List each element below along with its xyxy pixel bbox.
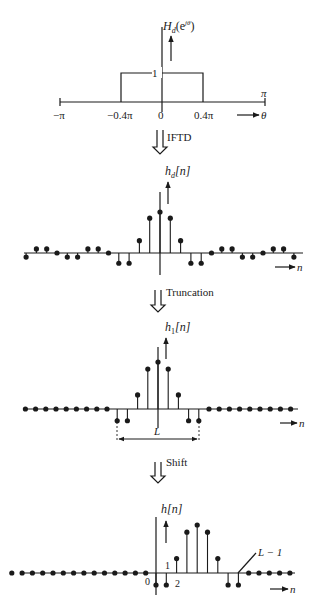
step-ifdt: IFTD	[153, 130, 192, 154]
y-axis-label: hd[n]	[165, 164, 191, 180]
tick-0.4pi: 0.4π	[194, 109, 214, 121]
stem-point	[71, 570, 76, 575]
stem-point	[227, 406, 232, 411]
stem-point	[268, 406, 273, 411]
stem-point	[267, 570, 272, 575]
step-truncation: Truncation	[151, 286, 214, 312]
stem-point	[174, 556, 179, 561]
double-down-arrow-icon	[151, 462, 165, 483]
stem-point	[188, 261, 193, 266]
stem-point	[20, 570, 25, 575]
tick-neg-0.4pi: −0.4π	[107, 109, 133, 121]
y-axis-label: h1[n]	[165, 320, 191, 336]
stem-point	[64, 406, 69, 411]
stem-point	[147, 216, 152, 221]
stem-point	[116, 261, 121, 266]
stem-point	[281, 246, 286, 251]
stem-point	[164, 582, 169, 587]
stem-point	[291, 255, 296, 260]
stem-point	[94, 406, 99, 411]
truncated-impulse-response-plot: h1[n] L n	[23, 320, 305, 441]
stem-point	[106, 250, 111, 255]
stem-point	[135, 392, 140, 397]
stem-point	[125, 418, 130, 423]
window-length-label: L	[153, 425, 160, 437]
x-axis-label: n	[290, 583, 296, 595]
double-down-arrow-icon	[153, 130, 167, 154]
stem-point	[104, 406, 109, 411]
stem-point	[166, 366, 171, 371]
stem-point	[271, 246, 276, 251]
stem-point	[102, 570, 107, 575]
stem-point	[237, 406, 242, 411]
stem-point	[168, 216, 173, 221]
stem-point	[209, 250, 214, 255]
stem-point	[195, 522, 200, 527]
stem-point	[85, 246, 90, 251]
end-index-label: L − 1	[257, 546, 282, 558]
stem-point	[157, 209, 162, 214]
stem-point	[186, 418, 191, 423]
stem-point	[96, 246, 101, 251]
stem-point	[33, 406, 38, 411]
stem-point	[145, 366, 150, 371]
stem-point	[123, 570, 128, 575]
stem-point	[219, 246, 224, 251]
stem-point	[84, 406, 89, 411]
stem-point	[74, 406, 79, 411]
stem-point	[257, 406, 262, 411]
stem-point	[184, 530, 189, 535]
stem-point	[178, 238, 183, 243]
stem-point	[137, 238, 142, 243]
stem-point	[256, 570, 261, 575]
y-axis-label: Hd(ejθ)	[162, 19, 194, 35]
stem-point	[81, 570, 86, 575]
stem-point	[92, 570, 97, 575]
y-axis-label: h[n]	[161, 502, 183, 516]
tick-2: 2	[175, 578, 180, 589]
step-label: Truncation	[166, 286, 214, 298]
tick-1: 1	[165, 560, 170, 571]
fir-design-diagram: Hd(ejθ) 1 π −π −0.4π 0 0.4π θ IFTD hd[n]…	[0, 0, 321, 609]
stem-point	[277, 570, 282, 575]
step-shift: Shift	[151, 456, 187, 483]
stem-point	[287, 570, 292, 575]
stem-point	[153, 582, 158, 587]
stem-point	[54, 250, 59, 255]
end-index-leader	[238, 553, 256, 573]
stem-point	[61, 570, 66, 575]
stem-point	[24, 255, 29, 260]
stem-point	[246, 570, 251, 575]
tick-zero: 0	[158, 109, 164, 121]
stem-point	[215, 556, 220, 561]
stem-point	[40, 570, 45, 575]
stem-point	[236, 582, 241, 587]
tick-neg-pi: −π	[53, 109, 65, 121]
stem-point	[50, 570, 55, 575]
stem-point	[288, 406, 293, 411]
stem-point	[9, 570, 14, 575]
stem-point	[217, 406, 222, 411]
stem-point	[30, 570, 35, 575]
stem-point	[230, 246, 235, 251]
stem-point	[206, 406, 211, 411]
step-label: Shift	[166, 456, 187, 468]
x-axis-label: n	[297, 261, 303, 273]
x-axis-label: n	[299, 417, 305, 429]
stem-point	[65, 255, 70, 260]
pi-tick-label: π	[261, 87, 267, 99]
tick-0: 0	[145, 576, 150, 587]
stem-point	[226, 582, 231, 587]
shifted-impulse-response-plot: h[n] 0 1 2 L − 1 n	[9, 502, 296, 595]
stem-point	[53, 406, 58, 411]
step-label: IFTD	[167, 131, 192, 143]
stem-point	[34, 246, 39, 251]
stem-point	[176, 392, 181, 397]
stem-point	[112, 570, 117, 575]
stem-point	[143, 570, 148, 575]
frequency-response-plot: Hd(ejθ) 1 π −π −0.4π 0 0.4π θ	[53, 19, 267, 121]
ideal-impulse-response-plot: hd[n] n	[24, 164, 304, 275]
stem-point	[247, 406, 252, 411]
stem-point	[75, 255, 80, 260]
stem-point	[205, 530, 210, 535]
